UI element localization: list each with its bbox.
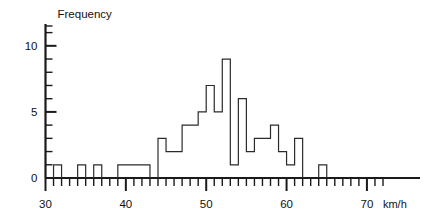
x-tick-label-50: 50 [200, 198, 213, 210]
x-axis-unit-label: km/h [383, 198, 407, 210]
y-tick-label-10: 10 [25, 40, 38, 52]
y-tick-label-5: 5 [31, 106, 37, 118]
x-tick-label-60: 60 [280, 198, 293, 210]
histogram-chart: 0510 3040506070 Frequency km/h [0, 0, 431, 217]
y-axis-title: Frequency [58, 8, 113, 20]
x-tick-label-70: 70 [361, 198, 374, 210]
y-tick-label-0: 0 [31, 172, 37, 184]
x-tick-label-40: 40 [119, 198, 132, 210]
x-tick-label-30: 30 [39, 198, 52, 210]
histogram-svg: 0510 3040506070 Frequency km/h [0, 0, 431, 217]
